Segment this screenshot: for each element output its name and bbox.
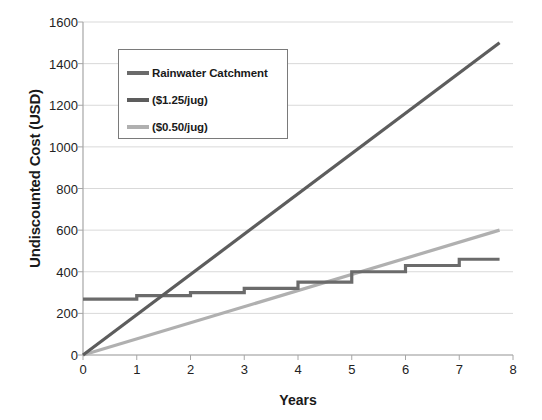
series-line-2 [83, 230, 500, 355]
legend-label-0: Rainwater Catchment [152, 67, 268, 79]
legend-item-2[interactable]: ($0.50/jug) [127, 118, 208, 136]
legend-label-2: ($0.50/jug) [152, 121, 208, 133]
legend-label-1: ($1.25/jug) [152, 94, 208, 106]
chart-container: Undiscounted Cost (USD) 1600 1400 1200 1… [0, 0, 542, 420]
legend-item-0[interactable]: Rainwater Catchment [127, 64, 268, 82]
legend-swatch-2 [127, 125, 149, 129]
legend: Rainwater Catchment ($1.25/jug) ($0.50/j… [118, 49, 288, 139]
legend-item-1[interactable]: ($1.25/jug) [127, 91, 208, 109]
legend-swatch-0 [127, 71, 149, 75]
legend-swatch-1 [127, 98, 149, 102]
